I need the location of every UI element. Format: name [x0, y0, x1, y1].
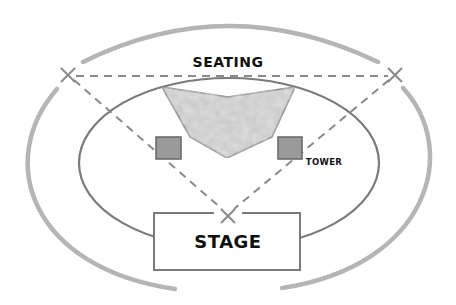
venue-diagram: SEATING TOWER STAGE — [0, 0, 456, 305]
left-tower — [156, 137, 181, 159]
right-tower — [278, 137, 302, 159]
stage-label: STAGE — [194, 231, 261, 252]
seating-label: SEATING — [193, 54, 264, 70]
x-mark-right-icon — [388, 68, 402, 82]
seating-area — [162, 87, 295, 158]
tower-label: TOWER — [306, 157, 342, 167]
x-mark-left-icon — [61, 68, 75, 82]
